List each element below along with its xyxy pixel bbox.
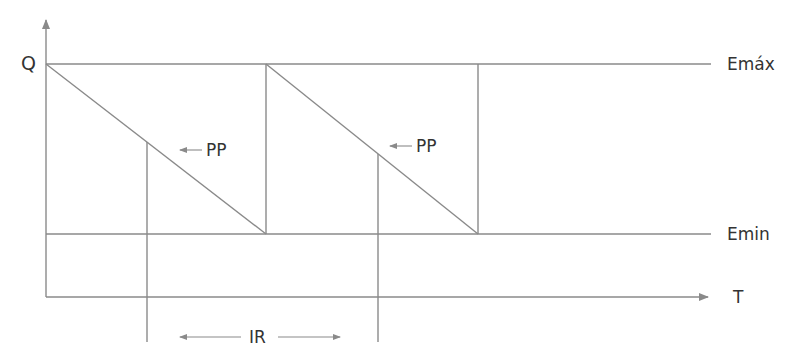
reorder-interval-label: IR xyxy=(249,329,266,346)
inventory-diagram xyxy=(0,0,802,362)
emax-label: Emáx xyxy=(727,56,775,73)
y-axis-label: Q xyxy=(21,54,36,73)
consumption-line-1 xyxy=(46,64,266,234)
reorder-point-label-2: PP xyxy=(416,138,437,155)
emin-label: Emin xyxy=(727,226,770,243)
reorder-point-label-1: PP xyxy=(206,142,227,159)
consumption-line-2 xyxy=(266,64,478,234)
x-axis-label: T xyxy=(733,289,743,306)
